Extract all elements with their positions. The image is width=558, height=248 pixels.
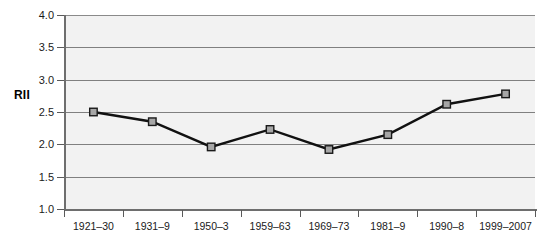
y-tick-4.0 <box>57 15 64 16</box>
y-tick-1.5 <box>57 177 64 178</box>
x-tick-8 <box>535 210 536 217</box>
x-tick-label: 1969–73 <box>308 220 349 232</box>
x-tick-6 <box>417 210 418 217</box>
x-tick-label: 1999–2007 <box>479 220 532 232</box>
x-tick-7 <box>476 210 477 217</box>
data-point-marker <box>207 143 215 151</box>
data-point-marker <box>266 126 274 133</box>
y-tick-2.5 <box>57 112 64 113</box>
y-tick-label: 2.5 <box>10 107 54 118</box>
x-tick-5 <box>358 210 359 217</box>
y-tick-label: 1.5 <box>10 172 54 183</box>
y-tick-label: 3.0 <box>10 75 54 86</box>
x-tick-label: 1950–3 <box>194 220 229 232</box>
y-tick-label: 1.0 <box>10 204 54 215</box>
series-markers-rii <box>90 90 510 153</box>
data-point-marker <box>149 118 157 126</box>
data-point-marker <box>325 146 333 154</box>
x-tick-4 <box>300 210 301 217</box>
x-tick-label: 1990–8 <box>429 220 464 232</box>
x-tick-3 <box>241 210 242 217</box>
y-tick-label: 3.5 <box>10 42 54 53</box>
data-series-group <box>64 15 535 209</box>
x-tick-2 <box>182 210 183 217</box>
y-tick-2.0 <box>57 144 64 145</box>
x-tick-0 <box>64 210 65 217</box>
data-point-marker <box>443 100 451 108</box>
line-chart: 1.01.52.02.53.03.54.0 1921–301931–91950–… <box>0 0 558 248</box>
x-tick-label: 1931–9 <box>135 220 170 232</box>
x-tick-1 <box>123 210 124 217</box>
y-tick-3.0 <box>57 80 64 81</box>
data-point-marker <box>502 90 510 98</box>
x-tick-label: 1981–9 <box>370 220 405 232</box>
y-tick-label: 4.0 <box>10 10 54 21</box>
data-point-marker <box>90 108 98 116</box>
x-axis-line <box>64 209 537 211</box>
x-tick-label: 1921–30 <box>73 220 114 232</box>
y-axis-title: RII <box>14 88 30 102</box>
x-tick-label: 1959–63 <box>250 220 291 232</box>
y-tick-label: 2.0 <box>10 139 54 150</box>
y-tick-1.0 <box>57 209 64 210</box>
data-point-marker <box>384 131 392 139</box>
y-tick-3.5 <box>57 47 64 48</box>
